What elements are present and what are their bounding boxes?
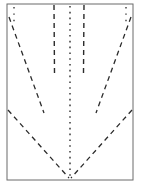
line-diagram-canvas xyxy=(0,0,141,187)
figure-container xyxy=(0,0,141,187)
